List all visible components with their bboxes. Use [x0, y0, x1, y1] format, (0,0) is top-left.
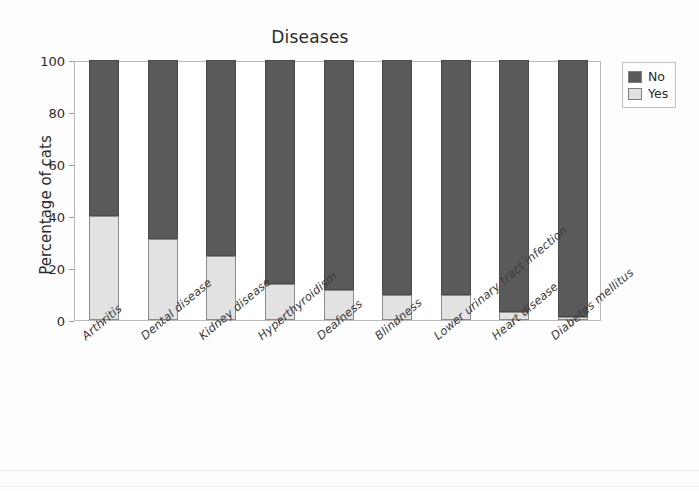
bar-column[interactable]	[558, 60, 588, 320]
bar-segment-no[interactable]	[441, 60, 471, 295]
legend-label: No	[648, 69, 665, 84]
legend-item[interactable]: No	[628, 68, 668, 85]
y-tick-mark	[69, 321, 74, 322]
bar-segment-no[interactable]	[89, 60, 119, 216]
bar-column[interactable]	[148, 60, 178, 320]
bar-segment-no[interactable]	[324, 60, 354, 290]
bar-segment-no[interactable]	[265, 60, 295, 284]
chart-page: Diseases Percentage of cats 020406080100…	[0, 0, 699, 491]
bars-container	[75, 62, 600, 320]
chart-legend[interactable]: NoYes	[622, 62, 676, 108]
bar-segment-no[interactable]	[148, 60, 178, 239]
legend-item[interactable]: Yes	[628, 85, 668, 102]
page-title: Diseases	[0, 27, 620, 47]
y-axis: 020406080100	[0, 61, 74, 321]
legend-label: Yes	[648, 86, 668, 101]
legend-swatch-icon	[628, 88, 642, 100]
scan-artifact-line	[0, 486, 699, 487]
bar-column[interactable]	[89, 60, 119, 320]
bar-column[interactable]	[382, 60, 412, 320]
y-tick-label: 0	[57, 314, 65, 329]
y-tick-label: 60	[48, 158, 65, 173]
y-tick-label: 80	[48, 106, 65, 121]
y-tick-label: 100	[40, 54, 65, 69]
y-tick-label: 40	[48, 210, 65, 225]
plot-area	[74, 61, 601, 321]
bar-segment-no[interactable]	[382, 60, 412, 295]
bar-column[interactable]	[441, 60, 471, 320]
y-tick-label: 20	[48, 262, 65, 277]
bar-segment-no[interactable]	[558, 60, 588, 317]
legend-swatch-icon	[628, 71, 642, 83]
bar-segment-no[interactable]	[206, 60, 236, 256]
scan-artifact-line	[0, 470, 699, 471]
